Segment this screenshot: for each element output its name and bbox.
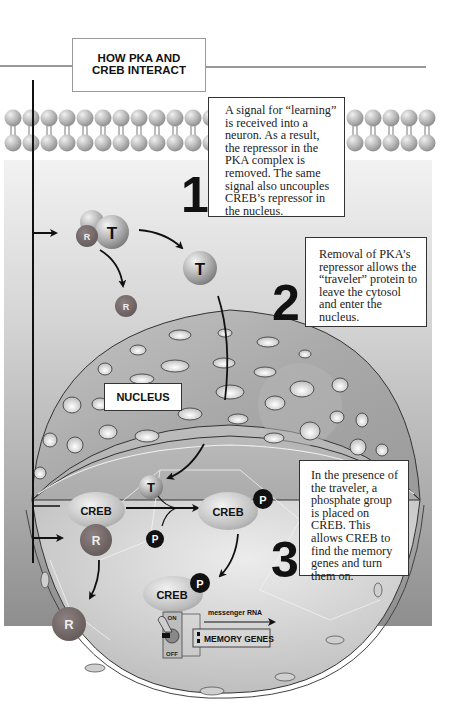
- step-1-caption: A signal for “learning” is received into…: [208, 97, 345, 217]
- svg-text:T: T: [147, 480, 155, 495]
- step-2-caption: Removal of PKA’s repressor allows the “t…: [305, 237, 427, 327]
- phosphate-free: P: [146, 530, 164, 548]
- messenger-rna-label: messenger RNA: [208, 609, 262, 617]
- svg-text:R: R: [92, 534, 101, 548]
- step-3-caption: In the presence of the traveler, a phosp…: [299, 460, 409, 576]
- step-1-number: 1: [181, 170, 209, 220]
- diagram-title: HOW PKA AND CREB INTERACT: [72, 38, 206, 92]
- title-line-2: CREB INTERACT: [73, 64, 205, 76]
- switch-off-label: OFF: [166, 651, 178, 657]
- free-repressor: R: [115, 295, 137, 317]
- memory-genes: MEMORY GENES: [193, 629, 274, 647]
- svg-text:P: P: [259, 494, 266, 506]
- svg-text:R: R: [123, 302, 130, 312]
- step-3-number: 3: [271, 535, 299, 585]
- svg-text:T: T: [195, 260, 206, 279]
- free-traveler: T: [183, 251, 217, 285]
- svg-text:R: R: [64, 617, 74, 632]
- repressor-label: R: [84, 232, 91, 242]
- svg-text:CREB: CREB: [212, 506, 243, 518]
- released-creb-repressor: R: [52, 607, 86, 641]
- svg-text:MEMORY GENES: MEMORY GENES: [204, 634, 274, 644]
- title-line-1: HOW PKA AND: [73, 52, 205, 64]
- switch-on-label: ON: [168, 615, 177, 621]
- svg-text:P: P: [196, 578, 203, 590]
- nucleus-label: NUCLEUS: [104, 383, 182, 411]
- svg-text:CREB: CREB: [80, 505, 111, 517]
- traveler-label: T: [107, 224, 118, 243]
- svg-text:CREB: CREB: [156, 589, 187, 601]
- svg-text:P: P: [152, 534, 159, 545]
- step-2-number: 2: [272, 278, 300, 328]
- nuclear-traveler: T: [139, 475, 163, 499]
